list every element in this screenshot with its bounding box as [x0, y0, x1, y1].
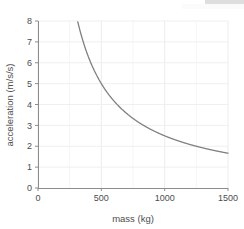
y-tick-label: 0 [27, 183, 32, 193]
x-tick-label: 0 [35, 193, 40, 203]
chart-figure: 012345678 050010001500 mass (kg) acceler… [0, 0, 244, 229]
x-axis-tick-labels: 050010001500 [35, 193, 238, 203]
x-axis-title: mass (kg) [112, 213, 154, 224]
y-tick-label: 2 [27, 141, 32, 151]
y-axis-tick-labels: 012345678 [27, 16, 32, 193]
y-tick-label: 8 [27, 16, 32, 26]
y-axis-title: acceleration (m/s/s) [4, 64, 15, 147]
plot-canvas: 012345678 050010001500 mass (kg) acceler… [0, 0, 244, 229]
y-tick-label: 5 [27, 79, 32, 89]
x-tick-label: 1000 [155, 193, 175, 203]
y-tick-label: 3 [27, 121, 32, 131]
y-tick-label: 7 [27, 37, 32, 47]
x-tick-label: 500 [94, 193, 109, 203]
y-tick-label: 1 [27, 162, 32, 172]
y-tick-label: 4 [27, 100, 32, 110]
y-tick-label: 6 [27, 58, 32, 68]
x-tick-label: 1500 [218, 193, 238, 203]
